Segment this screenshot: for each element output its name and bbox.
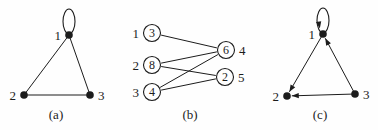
edge-1-2 xyxy=(24,35,69,95)
vertex-label-L2: 2 xyxy=(133,58,140,73)
edge-3-1 xyxy=(325,38,355,94)
edge-L2-R4 xyxy=(161,52,217,63)
vertex-label-R4: 4 xyxy=(239,43,246,58)
vertex-dot-1 xyxy=(319,30,327,38)
self-loop-1 xyxy=(317,8,329,33)
vertex-dot-1 xyxy=(65,31,73,39)
caption-a: (a) xyxy=(32,107,80,123)
vertex-value-R5: 2 xyxy=(222,70,228,84)
arrowhead-1-2 xyxy=(289,84,295,91)
vertex-label-3: 3 xyxy=(363,87,370,102)
vertex-label-1: 1 xyxy=(55,28,62,43)
arrowhead-3-1 xyxy=(325,38,331,45)
vertex-dot-2 xyxy=(283,92,291,100)
caption-b: (b) xyxy=(166,107,214,123)
vertex-label-2: 2 xyxy=(10,88,17,103)
vertex-label-L3: 3 xyxy=(133,85,140,100)
edge-1-3 xyxy=(69,35,90,95)
edge-L3-R5 xyxy=(161,79,216,90)
edge-1-2 xyxy=(289,34,323,92)
edge-L1-R4 xyxy=(161,35,217,48)
vertex-dot-3 xyxy=(351,90,359,98)
vertex-label-L1: 1 xyxy=(133,26,140,41)
edge-L3-R4 xyxy=(160,55,218,88)
vertex-value-L2: 8 xyxy=(149,58,155,72)
vertex-value-L1: 3 xyxy=(149,26,155,40)
self-loop-1 xyxy=(63,9,75,34)
vertex-label-2: 2 xyxy=(273,89,280,104)
graph-b: 3182436425 xyxy=(133,25,247,101)
graph-figure: 1233182436425123 (a) (b) (c) xyxy=(0,0,378,130)
vertex-label-1: 1 xyxy=(309,27,316,42)
vertex-label-R5: 5 xyxy=(238,70,245,85)
vertex-value-R4: 6 xyxy=(223,43,229,57)
loop-arrowhead-1 xyxy=(316,21,321,28)
graph-c: 123 xyxy=(273,8,370,104)
vertex-value-L3: 4 xyxy=(149,85,155,99)
vertex-label-3: 3 xyxy=(98,88,105,103)
graph-a: 123 xyxy=(10,9,105,103)
caption-c: (c) xyxy=(296,107,344,123)
edge-3-2 xyxy=(292,94,355,96)
arrowhead-3-2 xyxy=(292,93,299,98)
vertex-dot-3 xyxy=(86,91,94,99)
vertex-dot-2 xyxy=(20,91,28,99)
